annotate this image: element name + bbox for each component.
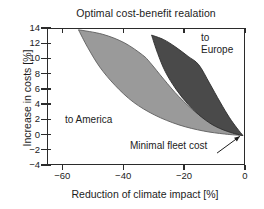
y-tick-label: 8 bbox=[35, 69, 40, 79]
y-tick-inner-mark bbox=[47, 149, 51, 150]
minimal-fleet-cost-arrow bbox=[217, 136, 240, 153]
plot-area: to America to Europe Minimal fleet cost bbox=[47, 28, 245, 165]
y-tick-inner-mark bbox=[47, 73, 51, 74]
y-tick-inner-mark bbox=[47, 164, 51, 165]
y-tick-inner-mark bbox=[47, 119, 51, 120]
x-axis-title: Reduction of climate impact [%] bbox=[30, 188, 260, 200]
x-tick-top-mark bbox=[244, 28, 245, 33]
chart-title: Optimal cost-benefit realation bbox=[47, 7, 245, 19]
chart-figure: Optimal cost-benefit realation to Americ… bbox=[0, 0, 264, 209]
y-tick-inner-mark bbox=[47, 134, 51, 135]
y-tick-inner-mark bbox=[47, 88, 51, 89]
x-tick-label: −60 bbox=[45, 171, 79, 181]
annotation-to-europe-line2: Europe bbox=[201, 44, 233, 56]
annotation-minimal-fleet-cost: Minimal fleet cost bbox=[130, 140, 207, 152]
y-tick-label: 4 bbox=[35, 99, 40, 109]
y-tick-label: 2 bbox=[35, 114, 40, 124]
annotation-to-america: to America bbox=[65, 114, 112, 126]
annotation-to-europe: to Europe bbox=[201, 32, 233, 55]
x-tick-top-mark bbox=[62, 28, 63, 33]
y-tick-inner-mark bbox=[47, 43, 51, 44]
x-tick-label: −20 bbox=[167, 171, 201, 181]
y-tick-label: 0 bbox=[35, 130, 40, 140]
y-tick-inner-mark bbox=[47, 27, 51, 28]
y-tick-inner-mark bbox=[47, 58, 51, 59]
x-tick-top-mark bbox=[123, 28, 124, 33]
x-tick-top-mark bbox=[183, 28, 184, 33]
x-tick-label: −40 bbox=[106, 171, 140, 181]
arrow-head bbox=[234, 136, 240, 141]
y-axis-title: Increase in costs [%] bbox=[21, 18, 33, 178]
annotation-to-europe-line1: to bbox=[201, 32, 233, 44]
x-tick-label: 0 bbox=[228, 171, 262, 181]
y-tick-inner-mark bbox=[47, 103, 51, 104]
y-tick-label: 6 bbox=[35, 84, 40, 94]
